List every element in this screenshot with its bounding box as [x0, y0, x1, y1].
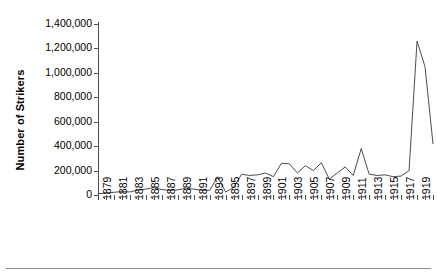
- x-axis-tick-mark: [186, 195, 187, 200]
- x-axis-tick-mark: [114, 195, 115, 200]
- x-axis-tick-label: 1887: [166, 177, 177, 200]
- x-axis-tick-label: 1905: [309, 177, 320, 200]
- x-axis-tick-label: 1913: [373, 177, 384, 200]
- x-axis-tick-mark: [130, 195, 131, 200]
- x-axis-tick-mark: [162, 195, 163, 200]
- x-axis-tick-mark: [242, 195, 243, 200]
- x-axis-tick-mark: [401, 195, 402, 200]
- x-axis-tick-mark: [281, 195, 282, 200]
- x-axis-tick-mark: [226, 195, 227, 200]
- x-axis-tick-label: 1915: [389, 177, 400, 200]
- chart-figure: Number of Strikers 1,400,0001,200,0001,0…: [0, 0, 437, 280]
- x-axis-tick-mark: [266, 195, 267, 200]
- x-axis-tick-label: 1881: [118, 177, 129, 200]
- y-axis-tick-mark: [94, 122, 99, 123]
- x-axis-tick-mark: [250, 195, 251, 200]
- x-axis-tick-mark: [385, 195, 386, 200]
- x-axis-tick-mark: [361, 195, 362, 200]
- x-axis-tick-label: 1893: [214, 177, 225, 200]
- y-axis-tick-mark: [94, 73, 99, 74]
- x-axis-tick-mark: [329, 195, 330, 200]
- y-axis-tick-mark: [94, 24, 99, 25]
- x-axis-tick-mark: [321, 195, 322, 200]
- footer-rule: [6, 268, 431, 269]
- x-axis-tick-mark: [218, 195, 219, 200]
- x-axis-tick-mark: [393, 195, 394, 200]
- x-axis-tick-label: 1883: [134, 177, 145, 200]
- y-axis-tick-label: 200,000: [6, 165, 92, 175]
- x-axis-tick-mark: [289, 195, 290, 200]
- x-axis-tick-label: 1907: [325, 177, 336, 200]
- x-axis-tick-label: 1917: [405, 177, 416, 200]
- y-axis-tick-label: 1,200,000: [6, 42, 92, 52]
- y-axis-tick-label: 1,000,000: [6, 67, 92, 77]
- x-axis-tick-label: 1891: [198, 177, 209, 200]
- x-axis-tick-mark: [273, 195, 274, 200]
- x-axis-tick-label: 1885: [150, 177, 161, 200]
- y-axis-tick-labels: 1,400,0001,200,0001,000,000800,000600,00…: [0, 0, 92, 200]
- x-axis-tick-mark: [122, 195, 123, 200]
- x-axis-tick-mark: [138, 195, 139, 200]
- x-axis-tick-mark: [305, 195, 306, 200]
- x-axis-tick-mark: [98, 195, 99, 200]
- x-axis-tick-label: 1911: [357, 177, 368, 200]
- x-axis-tick-mark: [377, 195, 378, 200]
- x-axis-tick-label: 1879: [102, 177, 113, 200]
- series-strikers-line: [98, 41, 433, 193]
- x-axis-tick-mark: [170, 195, 171, 200]
- x-axis-tick-label: 1895: [230, 177, 241, 200]
- x-axis-tick-label: 1889: [182, 177, 193, 200]
- y-axis-tick-mark: [94, 146, 99, 147]
- x-axis-tick-label: 1901: [277, 177, 288, 200]
- x-axis-tick-mark: [345, 195, 346, 200]
- x-axis-tick-mark: [194, 195, 195, 200]
- x-axis-tick-mark: [337, 195, 338, 200]
- series-line-chart: [98, 24, 433, 195]
- x-axis-tick-mark: [178, 195, 179, 200]
- x-axis-tick-mark: [417, 195, 418, 200]
- x-axis-tick-mark: [425, 195, 426, 200]
- x-axis-tick-mark: [258, 195, 259, 200]
- x-axis-tick-mark: [106, 195, 107, 200]
- x-axis-tick-label: 1897: [246, 177, 257, 200]
- x-axis-tick-label: 1909: [341, 177, 352, 200]
- y-axis-tick-mark: [94, 48, 99, 49]
- x-axis-tick-mark: [210, 195, 211, 200]
- x-axis-tick-mark: [146, 195, 147, 200]
- x-axis-tick-mark: [369, 195, 370, 200]
- x-axis-tick-mark: [353, 195, 354, 200]
- y-axis-tick-label: 400,000: [6, 140, 92, 150]
- x-axis-tick-mark: [202, 195, 203, 200]
- x-axis-tick-label: 1919: [421, 177, 432, 200]
- x-axis-tick-mark: [234, 195, 235, 200]
- y-axis-tick-mark: [94, 97, 99, 98]
- y-axis-tick-label: 800,000: [6, 91, 92, 101]
- x-axis-tick-label: 1903: [293, 177, 304, 200]
- y-axis-tick-label: 0: [6, 189, 92, 199]
- y-axis-tick-mark: [94, 171, 99, 172]
- x-axis-tick-mark: [409, 195, 410, 200]
- x-axis-tick-mark: [154, 195, 155, 200]
- x-axis-tick-mark: [313, 195, 314, 200]
- y-axis-tick-label: 1,400,000: [6, 18, 92, 28]
- x-axis-tick-mark: [297, 195, 298, 200]
- x-axis-tick-label: 1899: [262, 177, 273, 200]
- y-axis-tick-label: 600,000: [6, 116, 92, 126]
- x-axis-tick-mark: [433, 195, 434, 200]
